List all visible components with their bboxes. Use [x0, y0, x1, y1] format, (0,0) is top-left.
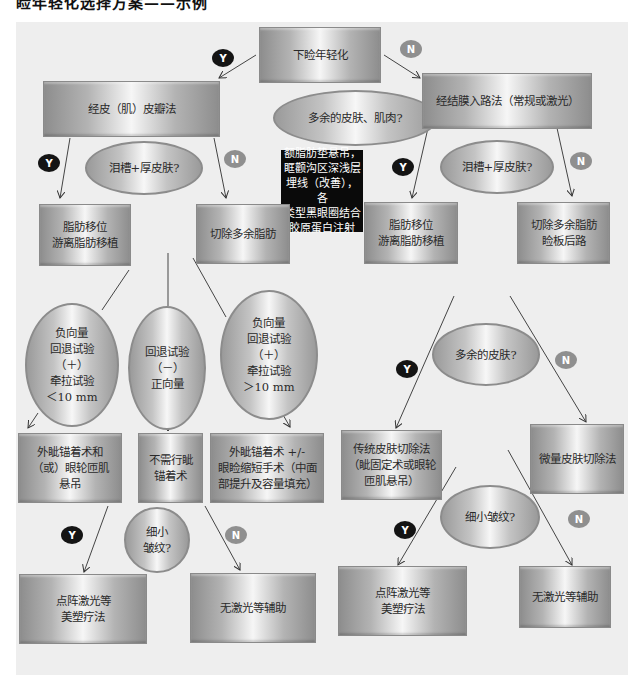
node-left-excise-fat: 切除多余脂肪 [196, 204, 290, 264]
node-transcutaneous: 经皮（肌）皮瓣法 [43, 81, 220, 137]
oval-negative-vector-lt10: 负向量 回退试验 （＋） 牵拉试验 ＜10 mm [25, 303, 119, 427]
node-right-fractional-laser: 点阵激光等 美塑疗法 [338, 566, 467, 636]
no-badge: N [568, 510, 590, 528]
node-no-canthopexy: 不需行眦 锚着术 [138, 433, 203, 503]
node-right-excise-fat: 切除多余脂肪 睑板后路 [517, 202, 610, 264]
node-micro-skin-excision: 微量皮肤切除法 [530, 424, 624, 494]
question-excess-skin-muscle: 多余的皮肤、肌肉? [273, 90, 438, 146]
no-badge: N [400, 40, 422, 58]
yes-badge: Y [396, 360, 418, 378]
yes-badge: Y [212, 49, 234, 67]
oval-negative-snapback: 回退试验 （－） 正向量 [128, 306, 206, 430]
yes-badge: Y [38, 154, 60, 172]
question-fine-wrinkles-right: 细小皱纹? [440, 485, 540, 549]
question-tear-trough-left: 泪槽+厚皮肤? [85, 141, 203, 195]
no-badge: N [555, 351, 577, 369]
node-left-no-laser: 无激光等辅助 [190, 573, 316, 643]
yes-badge: Y [61, 526, 83, 544]
question-excess-skin-right: 多余的皮肤? [432, 323, 540, 386]
question-fine-wrinkles-left: 细小 皱纹? [124, 507, 190, 573]
node-left-fractional-laser: 点阵激光等 美塑疗法 [19, 574, 147, 644]
node-right-fat-reposition: 脂肪移位 游离脂肪移植 [364, 202, 458, 264]
question-tear-trough-right: 泪槽+厚皮肤? [440, 140, 554, 194]
node-transconjunctival: 经结膜入路法（常规或激光） [422, 73, 592, 129]
node-left-fat-reposition: 脂肪移位 游离脂肪移植 [39, 204, 131, 266]
node-right-no-laser: 无激光等辅助 [519, 566, 611, 628]
node-root: 下睑年轻化 [259, 27, 381, 83]
yes-badge: Y [394, 521, 416, 539]
no-badge: N [225, 526, 247, 544]
node-traditional-skin-excision: 传统皮肤切除法 （眦固定术或眼轮 匝肌悬吊） [341, 430, 442, 500]
no-badge: N [224, 150, 246, 168]
note-box: 额脂肪垫悬吊， 眶颧沟区深浅层 埋线（改善），各 类型黑眼圈结合 胶原蛋白注射 [281, 150, 363, 232]
yes-badge: Y [392, 158, 414, 176]
node-canthopexy-plus-shortening: 外眦锚着术 +/- 眼睑缩短手术（中面 部提升及容量填充） [210, 433, 324, 503]
oval-negative-vector-gt10: 负向量 回退试验 （＋） 牵拉试验 ＞10 mm [220, 290, 318, 420]
no-badge: N [570, 152, 592, 170]
node-canthopexy-and-suspension: 外眦锚着术和 （或）眼轮匝肌 悬吊 [18, 433, 122, 503]
